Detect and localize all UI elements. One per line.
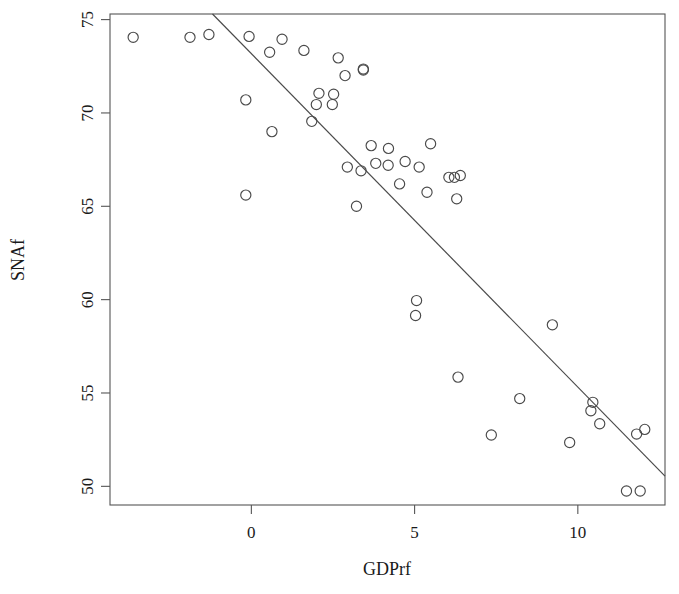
data-point xyxy=(277,34,287,44)
y-axis-tick-label: 60 xyxy=(79,291,98,308)
data-point xyxy=(547,320,557,330)
data-point xyxy=(314,88,324,98)
y-axis-tick-label: 50 xyxy=(79,478,98,495)
plot-canvas: 505560657075 0510 GDPrf SNAf xyxy=(0,0,679,594)
data-point xyxy=(329,89,339,99)
data-point xyxy=(595,419,605,429)
data-point xyxy=(411,295,421,305)
data-point xyxy=(515,393,525,403)
data-point xyxy=(351,201,361,211)
data-point xyxy=(327,99,337,109)
data-point xyxy=(640,424,650,434)
data-point xyxy=(311,99,321,109)
data-point xyxy=(342,162,352,172)
data-point xyxy=(383,143,393,153)
data-point xyxy=(299,45,309,55)
data-point xyxy=(414,162,424,172)
y-axis-tick-label: 75 xyxy=(79,11,98,28)
data-point xyxy=(452,194,462,204)
data-point xyxy=(307,116,317,126)
data-point xyxy=(356,166,366,176)
data-point xyxy=(204,29,214,39)
data-point xyxy=(635,486,645,496)
data-point xyxy=(425,139,435,149)
data-point xyxy=(241,190,251,200)
data-point xyxy=(453,372,463,382)
data-point xyxy=(394,179,404,189)
data-point xyxy=(366,141,376,151)
data-point xyxy=(455,170,465,180)
x-axis-tick-group: 0510 xyxy=(247,505,586,542)
data-point xyxy=(358,64,368,74)
x-axis-tick-label: 0 xyxy=(247,523,256,542)
data-point xyxy=(265,47,275,57)
data-point xyxy=(422,187,432,197)
data-point xyxy=(340,71,350,81)
x-axis-tick-label: 5 xyxy=(410,523,419,542)
axis-frame-box xyxy=(110,14,665,505)
data-point xyxy=(241,95,251,105)
data-point xyxy=(267,127,277,137)
data-point xyxy=(244,31,254,41)
y-axis-tick-label: 70 xyxy=(79,104,98,121)
data-point xyxy=(185,32,195,42)
data-point-group xyxy=(128,29,650,496)
scatter-plot-figure: 505560657075 0510 GDPrf SNAf xyxy=(0,0,679,594)
data-point xyxy=(358,65,368,75)
data-point xyxy=(383,160,393,170)
data-point xyxy=(486,430,496,440)
x-axis-tick-label: 10 xyxy=(569,523,586,542)
plot-frame-group xyxy=(110,14,665,505)
data-point xyxy=(410,310,420,320)
y-axis-tick-label: 65 xyxy=(79,198,98,215)
y-axis-tick-group: 505560657075 xyxy=(79,11,111,495)
y-axis-title: SNAf xyxy=(8,239,28,281)
data-point xyxy=(371,158,381,168)
data-point xyxy=(621,486,631,496)
regression-line xyxy=(213,14,665,476)
x-axis-title: GDPrf xyxy=(363,559,411,579)
data-point xyxy=(128,32,138,42)
y-axis-tick-label: 55 xyxy=(79,384,98,401)
data-point xyxy=(400,156,410,166)
data-point xyxy=(565,437,575,447)
data-point xyxy=(333,53,343,63)
